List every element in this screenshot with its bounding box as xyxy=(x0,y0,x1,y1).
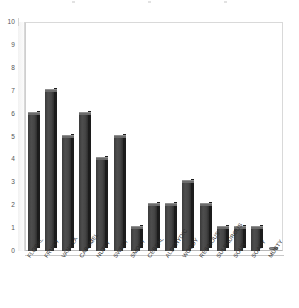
y-axis-3d-wall xyxy=(18,22,25,251)
y-tick-label: 1 xyxy=(11,225,15,232)
bar-top-face xyxy=(114,135,126,138)
y-tick-label: 6 xyxy=(11,110,15,117)
bar-top-face xyxy=(62,135,74,138)
y-tick-label: 8 xyxy=(11,65,15,72)
bar-front-face xyxy=(62,137,71,252)
bar-front-face xyxy=(28,114,37,251)
bar-top-face xyxy=(96,157,108,160)
y-tick-label: 9 xyxy=(11,42,15,49)
edge-artifact xyxy=(72,1,75,3)
bar-top-face xyxy=(79,112,91,115)
bar-side-face xyxy=(88,111,91,248)
bar-top-face xyxy=(28,112,40,115)
bar-top-face xyxy=(45,89,57,92)
bar-top-face xyxy=(182,180,194,183)
x-axis-category-labels: FLORALFRUITYVANILLACARAMELNUTTYSWEETSMOK… xyxy=(25,256,299,308)
bar[interactable] xyxy=(45,88,57,251)
bar-top-face xyxy=(131,226,143,229)
y-tick-label: 7 xyxy=(11,87,15,94)
bar-front-face xyxy=(79,114,88,251)
bar-front-face xyxy=(45,91,54,251)
y-tick-label: 5 xyxy=(11,133,15,140)
edge-artifact xyxy=(224,1,227,3)
bar-side-face xyxy=(105,156,108,248)
bars-layer xyxy=(25,22,283,251)
bar-front-face xyxy=(114,137,123,252)
bar-top-face xyxy=(217,226,229,229)
y-tick-label: 10 xyxy=(8,19,15,26)
y-tick-label: 4 xyxy=(11,156,15,163)
edge-artifact xyxy=(148,1,151,3)
bar[interactable] xyxy=(28,111,40,251)
bar-side-face xyxy=(54,88,57,248)
y-tick-label: 0 xyxy=(11,248,15,255)
y-axis-tick-labels: 012345678910 xyxy=(0,0,18,308)
top-edge-artifacts xyxy=(0,0,299,4)
bar-top-face xyxy=(165,203,177,206)
y-tick-label: 2 xyxy=(11,202,15,209)
bar[interactable] xyxy=(114,134,126,252)
bar[interactable] xyxy=(62,134,74,252)
bar-side-face xyxy=(71,134,74,249)
bar-top-face xyxy=(148,203,160,206)
bar[interactable] xyxy=(79,111,91,251)
bar-top-face xyxy=(251,226,263,229)
bar-side-face xyxy=(123,134,126,249)
y-tick-label: 3 xyxy=(11,179,15,186)
bar-chart: 012345678910 FLORALFRUITYVANILLACARAMELN… xyxy=(0,0,299,308)
bar-side-face xyxy=(37,111,40,248)
bar-top-face xyxy=(200,203,212,206)
